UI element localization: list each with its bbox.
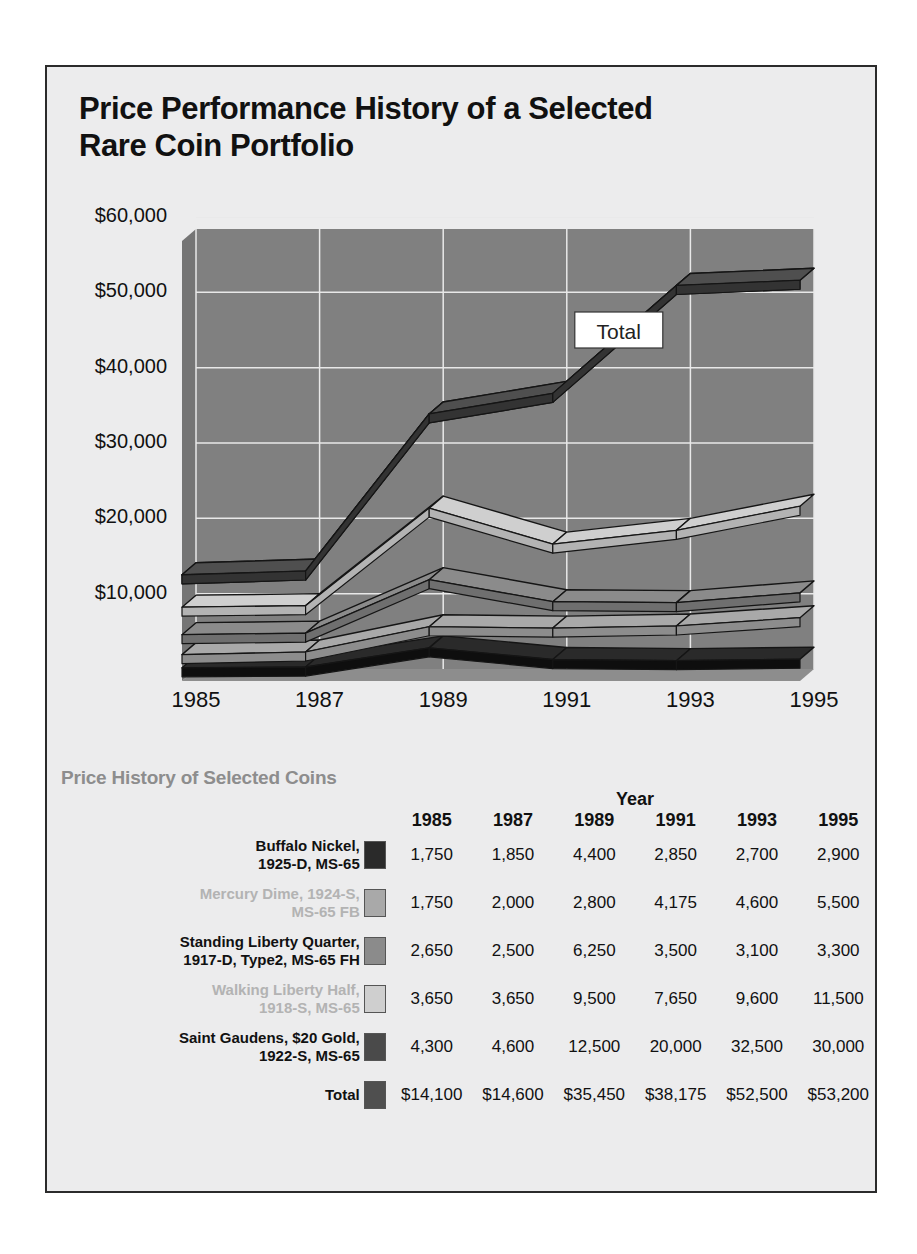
ribbon-face: [182, 652, 306, 664]
table-row: Saint Gaudens, $20 Gold, 1922-S, MS-654,…: [47, 1023, 879, 1071]
table-cell: 2,850: [635, 831, 716, 879]
table-cell: 3,100: [716, 927, 797, 975]
table-cell: 5,500: [798, 879, 879, 927]
table-cell: 2,900: [798, 831, 879, 879]
legend-swatch-icon: [364, 889, 386, 917]
table-cell: $14,600: [472, 1071, 553, 1119]
table-cell: 11,500: [798, 975, 879, 1023]
column-header: 1987: [472, 810, 553, 831]
ribbon-segment: [429, 615, 567, 628]
column-header: 1991: [635, 810, 716, 831]
table-cell: 2,500: [472, 927, 553, 975]
table-cell: $53,200: [798, 1071, 879, 1119]
column-header: 1985: [391, 810, 472, 831]
legend-swatch-cell: [360, 1023, 391, 1071]
ribbon-face: [182, 667, 306, 677]
y-tick-label: $50,000: [47, 279, 167, 302]
ribbon-segment: [676, 647, 814, 661]
table-cell: 1,750: [391, 831, 472, 879]
ribbon-face: [429, 627, 553, 637]
y-tick-label: $10,000: [47, 581, 167, 604]
column-header: 1989: [554, 810, 635, 831]
table-cell: 3,650: [472, 975, 553, 1023]
total-annotation-label: Total: [597, 320, 641, 343]
ribbon-segment: [182, 621, 320, 635]
legend-swatch-icon: [364, 841, 386, 869]
table-cell: 4,400: [554, 831, 635, 879]
table-cell: 7,650: [635, 975, 716, 1023]
column-header: 1993: [716, 810, 797, 831]
table-cell: 4,300: [391, 1023, 472, 1071]
row-label: Mercury Dime, 1924-S, MS-65 FB: [47, 879, 360, 927]
x-tick-label: 1989: [398, 687, 488, 713]
year-caption-row: Year: [47, 789, 879, 810]
price-history-table-area: Price History of Selected Coins Year 198…: [47, 767, 879, 1187]
total-annotation: Total: [575, 312, 663, 348]
table-cell: 4,600: [716, 879, 797, 927]
x-tick-label: 1991: [522, 687, 612, 713]
table-header-row: 198519871989199119931995: [47, 810, 879, 831]
x-tick-label: 1993: [645, 687, 735, 713]
page-title: Price Performance History of a Selected …: [79, 91, 699, 164]
table-cell: 3,650: [391, 975, 472, 1023]
ribbon-face: [182, 633, 306, 644]
column-header: 1995: [798, 810, 879, 831]
row-label: Standing Liberty Quarter, 1917-D, Type2,…: [47, 927, 360, 975]
table-cell: 6,250: [554, 927, 635, 975]
row-label: Total: [47, 1071, 360, 1119]
ribbon-face: [553, 660, 677, 670]
table-cell: 20,000: [635, 1023, 716, 1071]
ribbon-segment: [553, 648, 691, 661]
ribbon-segment: [553, 590, 691, 603]
chart-area: $10,000$20,000$30,000$40,000$50,000$60,0…: [47, 217, 879, 777]
table-cell: 9,500: [554, 975, 635, 1023]
x-tick-label: 1985: [151, 687, 241, 713]
y-tick-label: $40,000: [47, 355, 167, 378]
table-cell: 1,850: [472, 831, 553, 879]
table-cell: $35,450: [554, 1071, 635, 1119]
table-cell: 32,500: [716, 1023, 797, 1071]
table-cell: 4,175: [635, 879, 716, 927]
table-cell: 3,500: [635, 927, 716, 975]
y-tick-label: $60,000: [47, 204, 167, 227]
y-tick-label: $30,000: [47, 430, 167, 453]
x-tick-label: 1995: [769, 687, 859, 713]
table-cell: 1,750: [391, 879, 472, 927]
table-row: Walking Liberty Half, 1918-S, MS-653,650…: [47, 975, 879, 1023]
x-tick-label: 1987: [275, 687, 365, 713]
price-history-table: Year 198519871989199119931995 Buffalo Ni…: [47, 789, 879, 1119]
legend-swatch-cell: [360, 831, 391, 879]
legend-swatch-icon: [364, 937, 386, 965]
chart-plot: Total: [47, 217, 879, 717]
table-cell: 2,800: [554, 879, 635, 927]
row-label: Walking Liberty Half, 1918-S, MS-65: [47, 975, 360, 1023]
table-cell: 9,600: [716, 975, 797, 1023]
table-cell: $52,500: [716, 1071, 797, 1119]
legend-swatch-icon: [364, 1033, 386, 1061]
table-row: Mercury Dime, 1924-S, MS-65 FB1,7502,000…: [47, 879, 879, 927]
table-cell: 2,000: [472, 879, 553, 927]
ribbon-face: [182, 606, 306, 617]
legend-swatch-icon: [364, 1081, 386, 1109]
table-cell: 30,000: [798, 1023, 879, 1071]
table-row: Total$14,100$14,600$35,450$38,175$52,500…: [47, 1071, 879, 1119]
table-cell: 4,600: [472, 1023, 553, 1071]
ribbon-face: [553, 602, 677, 612]
table-cell: 2,650: [391, 927, 472, 975]
legend-swatch-cell: [360, 1071, 391, 1119]
table-body: Buffalo Nickel, 1925-D, MS-651,7501,8504…: [47, 831, 879, 1119]
table-row: Buffalo Nickel, 1925-D, MS-651,7501,8504…: [47, 831, 879, 879]
legend-swatch-icon: [364, 985, 386, 1013]
table-cell: 3,300: [798, 927, 879, 975]
ribbon-face: [676, 659, 800, 670]
table-cell: 2,700: [716, 831, 797, 879]
legend-swatch-cell: [360, 975, 391, 1023]
ribbon-segment: [182, 594, 320, 608]
row-label: Buffalo Nickel, 1925-D, MS-65: [47, 831, 360, 879]
y-tick-label: $20,000: [47, 505, 167, 528]
table-cell: 12,500: [554, 1023, 635, 1071]
legend-swatch-cell: [360, 927, 391, 975]
poster-frame: Price Performance History of a Selected …: [45, 65, 877, 1193]
ribbon-face: [553, 626, 677, 637]
table-section-title: Price History of Selected Coins: [47, 767, 879, 789]
